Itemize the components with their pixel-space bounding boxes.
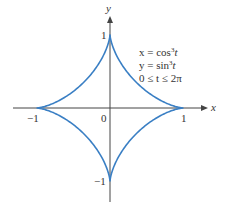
x-axis-label: x [210,101,216,113]
tick-x-neg1: −1 [27,112,39,124]
astroid-chart: x y −1 0 1 1 −1 x = cos3t y = sin3t 0 ≤ … [0,0,232,212]
equation-x: x = cos3t [139,46,178,58]
equation-t-range: 0 ≤ t ≤ 2π [139,72,182,84]
tick-x-1: 1 [181,112,187,124]
y-axis-label: y [105,2,111,14]
tick-y-neg1: −1 [94,175,106,187]
tick-origin: 0 [101,112,107,124]
x-axis-arrow-icon [201,105,208,111]
y-axis-arrow-icon [107,16,113,23]
equation-y: y = sin3t [139,59,177,71]
tick-y-1: 1 [101,29,107,41]
